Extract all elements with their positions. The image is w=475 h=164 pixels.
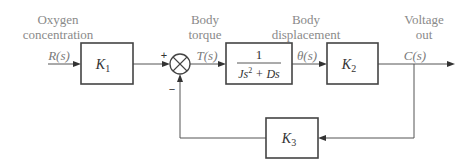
input-description-line2: concentration: [23, 27, 94, 42]
block-diagram: Oxygen concentration Body torque Body di…: [0, 0, 475, 164]
displacement-description-line1: Body: [292, 12, 321, 27]
input-arrow-icon: [73, 61, 81, 67]
plant-denominator: Js2 + Ds: [238, 66, 280, 81]
signal-torque-label: T(s): [197, 48, 218, 63]
output-description-line2: out: [416, 27, 433, 42]
feedback-return-wire: [180, 78, 266, 138]
plant-numerator: 1: [256, 47, 263, 62]
summer-input-arrow-icon: [162, 61, 170, 67]
plus-sign: +: [161, 49, 167, 61]
torque-description-line2: torque: [188, 27, 221, 42]
signal-output-label: C(s): [404, 48, 426, 63]
summer-feedback-arrow-icon: [177, 74, 183, 82]
torque-description-line1: Body: [191, 12, 220, 27]
k2-input-arrow-icon: [319, 61, 327, 67]
signal-input-label: R(s): [47, 48, 70, 63]
plant-input-arrow-icon: [218, 61, 226, 67]
signal-displacement-label: θ(s): [297, 48, 317, 63]
input-description-line1: Oxygen: [37, 12, 79, 27]
minus-sign: −: [169, 83, 175, 95]
output-description-line1: Voltage: [404, 12, 444, 27]
displacement-description-line2: displacement: [272, 27, 341, 42]
k3-input-arrow-icon: [318, 135, 326, 141]
output-arrow-icon: [447, 61, 455, 67]
